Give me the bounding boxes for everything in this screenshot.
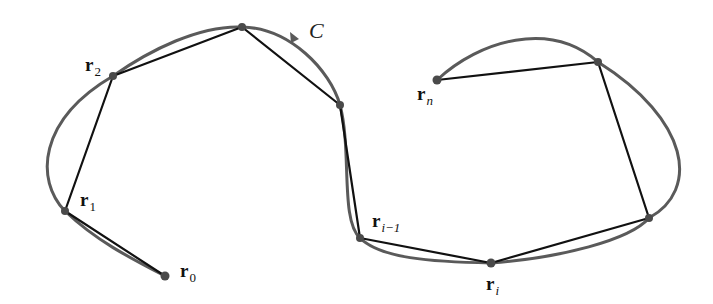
curve-label-c: C bbox=[309, 20, 324, 42]
label-r2-base: r bbox=[85, 54, 93, 75]
label-r1-sub: 1 bbox=[89, 199, 96, 214]
label-rn-base: r bbox=[417, 83, 425, 104]
label-r1-base: r bbox=[80, 189, 88, 210]
diagram-canvas bbox=[0, 0, 713, 304]
label-rn: rn bbox=[417, 84, 433, 103]
vertex-p3 bbox=[238, 23, 246, 31]
label-ri-base: r bbox=[486, 273, 494, 294]
label-r0-sub: 0 bbox=[189, 270, 196, 285]
vertex-ri bbox=[487, 259, 496, 268]
vertex-p4 bbox=[336, 101, 344, 109]
label-ri: ri bbox=[486, 274, 499, 293]
vertex-r1 bbox=[61, 207, 69, 215]
label-r0-base: r bbox=[180, 260, 188, 281]
label-ri-minus-1-base: r bbox=[372, 210, 380, 231]
curve-polygon-diagram: C r0 r1 r2 ri−1 ri rn bbox=[0, 0, 713, 304]
label-rn-sub: n bbox=[426, 93, 433, 108]
vertex-p8 bbox=[594, 58, 602, 66]
vertex-r0 bbox=[161, 272, 170, 281]
label-r0: r0 bbox=[180, 261, 196, 280]
vertex-ri-minus-1 bbox=[356, 234, 364, 242]
label-ri-minus-1: ri−1 bbox=[372, 211, 400, 230]
label-r1: r1 bbox=[80, 190, 96, 209]
label-ri-minus-1-sub: i−1 bbox=[381, 220, 400, 235]
vertex-r2 bbox=[109, 72, 117, 80]
direction-arrow-icon bbox=[290, 32, 299, 43]
vertex-p7 bbox=[645, 214, 653, 222]
vertex-rn bbox=[433, 76, 442, 85]
label-r2: r2 bbox=[85, 55, 101, 74]
label-r2-sub: 2 bbox=[94, 64, 101, 79]
label-ri-sub: i bbox=[495, 283, 499, 298]
